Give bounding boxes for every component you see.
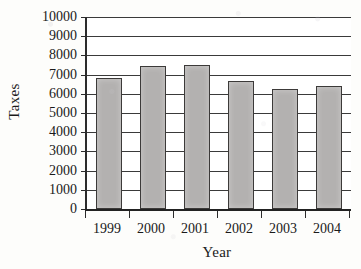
x-axis-tick-label: 2001 xyxy=(172,221,218,237)
bar xyxy=(184,65,210,209)
y-axis-tick-label: 7000 xyxy=(49,67,77,83)
y-axis-title: Taxes xyxy=(6,57,23,147)
bar xyxy=(228,81,254,209)
bar-chart: Taxes 1000090008000700060005000400030002… xyxy=(0,0,361,269)
y-axis-tick-label: 2000 xyxy=(49,163,77,179)
gridline xyxy=(87,17,351,18)
x-axis-tick-label: 2003 xyxy=(260,221,306,237)
bar xyxy=(316,86,342,209)
x-axis-tick-label: 2000 xyxy=(128,221,174,237)
gridline xyxy=(87,94,351,95)
x-axis-tick xyxy=(85,211,86,218)
gridline xyxy=(87,36,351,37)
x-axis-tick xyxy=(173,211,174,218)
x-axis-tick-label: 1999 xyxy=(84,221,130,237)
y-axis-tick-label: 0 xyxy=(70,201,77,217)
x-axis: 199920002001200220032004 xyxy=(85,209,349,211)
x-axis-tick xyxy=(217,211,218,218)
x-axis-tick xyxy=(305,211,306,218)
gridline xyxy=(87,75,351,76)
y-axis-tick-label: 8000 xyxy=(49,47,77,63)
y-axis-tick: 3000 xyxy=(81,151,87,152)
y-axis-tick-label: 6000 xyxy=(49,86,77,102)
y-axis-tick-label: 10000 xyxy=(42,9,77,25)
y-axis-tick: 1000 xyxy=(81,190,87,191)
y-axis-tick-label: 3000 xyxy=(49,143,77,159)
y-axis-tick: 5000 xyxy=(81,113,87,114)
bar xyxy=(272,89,298,209)
y-axis-tick-label: 4000 xyxy=(49,124,77,140)
gridline xyxy=(87,132,351,133)
x-axis-title: Year xyxy=(85,244,349,261)
x-axis-tick-label: 2002 xyxy=(216,221,262,237)
y-axis-tick: 4000 xyxy=(81,132,87,133)
gridline xyxy=(87,113,351,114)
bar xyxy=(96,78,122,209)
y-axis-tick-label: 9000 xyxy=(49,28,77,44)
gridline xyxy=(87,190,351,191)
y-axis-tick: 8000 xyxy=(81,55,87,56)
x-axis-tick-label: 2004 xyxy=(304,221,350,237)
gridline xyxy=(87,151,351,152)
gridline xyxy=(87,171,351,172)
plot-area: 1000090008000700060005000400030002000100… xyxy=(85,17,351,209)
y-axis-tick: 6000 xyxy=(81,94,87,95)
x-axis-tick xyxy=(129,211,130,218)
y-axis-tick: 2000 xyxy=(81,171,87,172)
y-axis-tick: 7000 xyxy=(81,75,87,76)
bar xyxy=(140,66,166,209)
y-axis-tick-label: 1000 xyxy=(49,182,77,198)
gridline xyxy=(87,55,351,56)
x-axis-tick xyxy=(349,211,350,218)
y-axis-tick-label: 5000 xyxy=(49,105,77,121)
x-axis-tick xyxy=(261,211,262,218)
y-axis-tick: 9000 xyxy=(81,36,87,37)
y-axis-tick: 10000 xyxy=(81,17,87,18)
